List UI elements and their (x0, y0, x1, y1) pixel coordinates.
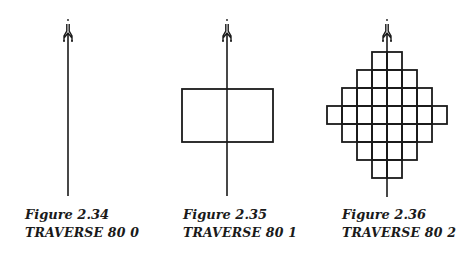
figure-2-34-drawing (63, 19, 73, 196)
figure-2-35-drawing (182, 19, 273, 196)
figure-number: Figure 2.34 (25, 206, 139, 224)
grid-cell (417, 106, 432, 124)
grid-cell (357, 70, 372, 88)
grid-cell (357, 124, 372, 142)
figure-2-36-caption: Figure 2.36 TRAVERSE 80 2 (342, 206, 456, 242)
grid-cell (417, 88, 432, 106)
grid-cell (432, 106, 447, 124)
grid-cell (327, 106, 342, 124)
grid-cell (387, 70, 402, 88)
figure-2-35-caption: Figure 2.35 TRAVERSE 80 1 (183, 206, 297, 242)
grid-cell (372, 124, 387, 142)
grid-cell (402, 70, 417, 88)
grid-cell (357, 142, 372, 160)
figure-2-36-drawing (327, 19, 447, 197)
grid-cell (372, 52, 387, 70)
grid-cell (387, 88, 402, 106)
grid-cell (357, 106, 372, 124)
grid-cell (372, 70, 387, 88)
figure-command: TRAVERSE 80 0 (25, 224, 139, 242)
figure-number: Figure 2.35 (183, 206, 297, 224)
grid-cell (402, 124, 417, 142)
grid-cell (402, 142, 417, 160)
grid-cell (372, 88, 387, 106)
grid-cell (372, 142, 387, 160)
grid-cell (342, 88, 357, 106)
grid-cell (387, 52, 402, 70)
figure-command: TRAVERSE 80 2 (342, 224, 456, 242)
grid-cell (417, 124, 432, 142)
grid-cell (402, 106, 417, 124)
grid-cell (387, 124, 402, 142)
grid-cell (387, 160, 402, 178)
grid-cell (402, 88, 417, 106)
grid-cell (357, 88, 372, 106)
figure-number: Figure 2.36 (342, 206, 456, 224)
grid-cell (372, 160, 387, 178)
figure-2-34-caption: Figure 2.34 TRAVERSE 80 0 (25, 206, 139, 242)
grid-cell (342, 124, 357, 142)
grid-cell (342, 106, 357, 124)
grid-cell (387, 142, 402, 160)
figure-command: TRAVERSE 80 1 (183, 224, 297, 242)
grid-cell (372, 106, 387, 124)
grid-cell (387, 106, 402, 124)
